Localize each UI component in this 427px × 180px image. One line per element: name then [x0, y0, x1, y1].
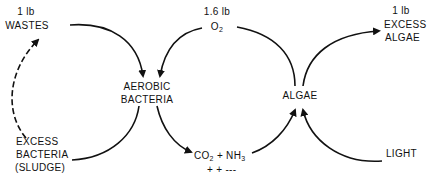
aerobic-bacteria-line2: BACTERIA: [116, 94, 178, 106]
arrow-light-to-algae: [303, 110, 382, 161]
arrow-oxygen-to-bacteria: [160, 28, 202, 76]
products-formula: CO2 + NH3: [194, 150, 245, 162]
excess-algae-line2: ALGAE: [385, 32, 420, 44]
products-other: + + ---: [207, 164, 236, 176]
aerobic-bacteria-line1: AEROBIC: [118, 81, 176, 93]
arrow-wastes-to-bacteria: [70, 25, 143, 76]
bacteria-algae-cycle-diagram: 1 lb WASTES 1.6 lb O2 1 lb EXCESS ALGAE …: [0, 0, 427, 180]
arrow-algae-to-excess-algae: [303, 31, 379, 86]
excess-bacteria-line1: EXCESS: [16, 136, 58, 148]
wastes-label: WASTES: [4, 20, 50, 32]
wastes-amount: 1 lb: [14, 6, 38, 18]
light-label: LIGHT: [386, 148, 417, 160]
dashed-arrow-sludge-to-wastes: [12, 40, 38, 138]
arc-algae-to-oxygen: [237, 27, 295, 86]
oxygen-label: O2: [203, 21, 231, 33]
arc-bacteria-to-sludge: [72, 106, 139, 160]
excess-bacteria-line2: BACTERIA: [16, 149, 68, 161]
algae-label: ALGAE: [280, 90, 320, 102]
excess-algae-line1: EXCESS: [384, 19, 426, 31]
arrow-bacteria-to-products: [157, 106, 191, 152]
excess-bacteria-line3: (SLUDGE): [15, 162, 65, 174]
excess-algae-amount: 1 lb: [389, 5, 413, 17]
oxygen-amount: 1.6 lb: [200, 6, 234, 18]
arrow-products-to-algae: [252, 110, 295, 153]
